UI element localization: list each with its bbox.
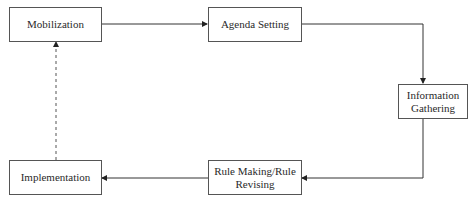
node-rule-making: Rule Making/Rule Revising bbox=[208, 160, 302, 195]
node-label: Rule Making/Rule Revising bbox=[213, 165, 297, 191]
node-label: Agenda Setting bbox=[221, 18, 289, 31]
node-agenda-setting: Agenda Setting bbox=[208, 7, 302, 42]
node-label: Mobilization bbox=[27, 18, 84, 31]
node-implementation: Implementation bbox=[9, 160, 102, 195]
node-label: Implementation bbox=[21, 171, 91, 184]
node-information-gathering: Information Gathering bbox=[398, 84, 468, 119]
arrow-agenda-to-info bbox=[301, 24, 423, 83]
arrow-info-to-rule bbox=[302, 118, 423, 178]
node-label: Information Gathering bbox=[407, 89, 460, 115]
node-mobilization: Mobilization bbox=[9, 7, 102, 42]
